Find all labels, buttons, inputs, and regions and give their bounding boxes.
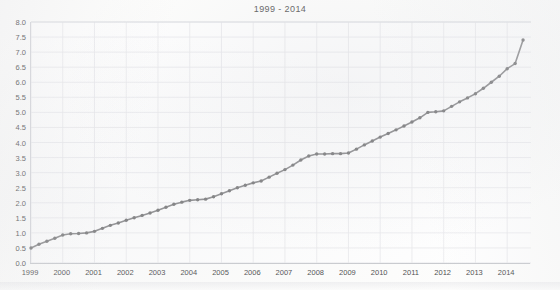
y-tick-label: 8.0 (0, 18, 26, 27)
data-point-marker (299, 158, 302, 161)
data-point-marker (410, 120, 413, 123)
x-axis-line (30, 263, 530, 264)
y-tick-label: 6.5 (0, 63, 26, 72)
data-point-marker (101, 227, 104, 230)
y-tick-label: 0.0 (0, 259, 26, 268)
x-tick-label: 1999 (22, 268, 39, 277)
x-tick-label: 2006 (244, 268, 261, 277)
data-point-marker (339, 152, 342, 155)
data-point-marker (434, 110, 437, 113)
y-tick-label: 0.5 (0, 243, 26, 252)
y-tick-label: 3.0 (0, 168, 26, 177)
x-tick-label: 2002 (117, 268, 134, 277)
y-tick-label: 2.5 (0, 183, 26, 192)
y-tick-label: 2.0 (0, 198, 26, 207)
scan-edge-shadow (0, 282, 560, 290)
data-series-line (31, 22, 531, 263)
data-point-marker (125, 219, 128, 222)
data-point-marker (188, 199, 191, 202)
data-point-marker (490, 81, 493, 84)
data-point-marker (331, 152, 334, 155)
data-point-marker (117, 221, 120, 224)
y-tick-label: 5.5 (0, 93, 26, 102)
y-tick-label: 1.0 (0, 228, 26, 237)
data-point-marker (283, 168, 286, 171)
data-point-marker (291, 163, 294, 166)
data-point-marker (418, 116, 421, 119)
data-point-marker (259, 179, 262, 182)
series-polyline (31, 40, 523, 248)
y-tick-label: 1.5 (0, 213, 26, 222)
y-tick-label: 5.0 (0, 108, 26, 117)
data-point-marker (450, 105, 453, 108)
data-point-marker (275, 172, 278, 175)
chart-title: 1999 - 2014 (0, 4, 560, 14)
y-tick-label: 7.0 (0, 48, 26, 57)
y-tick-label: 3.5 (0, 153, 26, 162)
plot-area (30, 22, 530, 263)
data-point-marker (164, 206, 167, 209)
y-tick-label: 6.0 (0, 78, 26, 87)
data-point-marker (426, 111, 429, 114)
data-point-marker (307, 154, 310, 157)
x-tick-label: 2014 (498, 268, 515, 277)
y-tick-label: 4.0 (0, 138, 26, 147)
data-point-marker (236, 186, 239, 189)
x-tick-label: 2013 (466, 268, 483, 277)
data-point-marker (371, 139, 374, 142)
data-point-marker (93, 230, 96, 233)
data-point-marker (521, 38, 524, 41)
data-point-marker (458, 100, 461, 103)
data-point-marker (85, 231, 88, 234)
x-tick-label: 2011 (403, 268, 419, 277)
data-point-marker (267, 175, 270, 178)
data-point-marker (505, 67, 508, 70)
data-point-marker (29, 246, 32, 249)
x-tick-label: 2003 (149, 268, 166, 277)
data-point-marker (379, 135, 382, 138)
data-point-marker (77, 232, 80, 235)
data-point-marker (498, 75, 501, 78)
data-point-marker (109, 224, 112, 227)
data-point-marker (69, 232, 72, 235)
data-point-marker (402, 124, 405, 127)
x-tick-label: 2007 (276, 268, 293, 277)
data-point-marker (482, 87, 485, 90)
x-tick-label: 2001 (85, 268, 102, 277)
data-point-marker (466, 96, 469, 99)
data-point-marker (212, 195, 215, 198)
y-tick-label: 7.5 (0, 33, 26, 42)
data-point-marker (474, 92, 477, 95)
data-point-marker (347, 151, 350, 154)
x-tick-label: 2008 (307, 268, 324, 277)
data-point-marker (228, 189, 231, 192)
data-point-marker (442, 109, 445, 112)
x-tick-label: 2005 (212, 268, 229, 277)
data-point-marker (220, 192, 223, 195)
data-point-marker (61, 233, 64, 236)
x-tick-label: 2004 (180, 268, 197, 277)
data-point-marker (45, 240, 48, 243)
data-point-marker (172, 203, 175, 206)
data-point-marker (323, 152, 326, 155)
data-point-marker (513, 62, 516, 65)
chart-page: 1999 - 2014 0.00.51.01.52.02.53.03.54.04… (0, 0, 560, 290)
x-tick-label: 2009 (339, 268, 356, 277)
x-tick-label: 2012 (434, 268, 451, 277)
data-point-marker (148, 211, 151, 214)
x-tick-label: 2010 (371, 268, 388, 277)
data-point-marker (252, 181, 255, 184)
data-point-marker (204, 197, 207, 200)
data-point-marker (363, 143, 366, 146)
data-point-marker (386, 132, 389, 135)
data-point-marker (156, 209, 159, 212)
data-point-marker (53, 237, 56, 240)
y-tick-label: 4.5 (0, 123, 26, 132)
data-point-marker (355, 147, 358, 150)
data-point-marker (244, 184, 247, 187)
data-point-marker (394, 128, 397, 131)
x-tick-label: 2000 (53, 268, 70, 277)
data-point-marker (132, 216, 135, 219)
data-point-marker (196, 198, 199, 201)
data-point-marker (315, 152, 318, 155)
